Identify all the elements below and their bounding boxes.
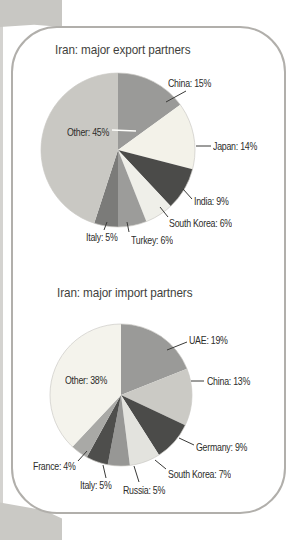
label-export-turkey: Turkey: 6% xyxy=(131,235,173,246)
label-export-china: China: 15% xyxy=(168,78,211,89)
label-import-china: China: 13% xyxy=(207,376,250,387)
leader-line-import-italy xyxy=(103,465,106,478)
label-export-india: India: 9% xyxy=(194,196,229,207)
leader-line-import-germany xyxy=(179,438,194,445)
label-import-other: Other: 38% xyxy=(65,375,107,386)
import-pie-chart xyxy=(50,324,192,466)
label-import-italy: Italy: 5% xyxy=(80,480,112,491)
export-chart-title: Iran: major export partners xyxy=(55,43,190,56)
leader-line-export-india xyxy=(183,189,192,199)
label-export-japan: Japan: 14% xyxy=(213,141,257,152)
label-export-other: Other: 45% xyxy=(67,127,109,138)
leader-line-export-other xyxy=(112,130,136,131)
label-import-germany: Germany: 9% xyxy=(196,442,247,453)
label-export-italy: Italy: 5% xyxy=(86,232,118,243)
leader-line-import-south-korea xyxy=(155,460,166,469)
label-import-south-korea: South Korea: 7% xyxy=(168,469,231,480)
label-import-russia: Russia: 5% xyxy=(123,485,165,496)
import-chart-title: Iran: major import partners xyxy=(57,286,192,299)
label-export-south-korea: South Korea: 6% xyxy=(169,218,232,229)
leader-line-import-russia xyxy=(134,466,139,482)
export-pie-chart xyxy=(41,73,195,227)
charts-canvas xyxy=(0,0,297,540)
label-import-uae: UAE: 19% xyxy=(189,335,228,346)
label-import-france: France: 4% xyxy=(33,461,76,472)
